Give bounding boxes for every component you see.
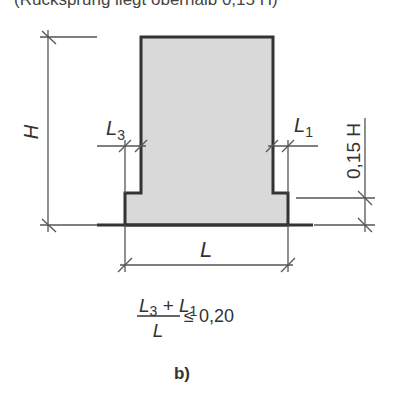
subfigure-label: b) xyxy=(174,364,190,383)
label-L3: L3 xyxy=(106,117,125,143)
svg-text:≤ 0,20: ≤ 0,20 xyxy=(184,306,234,326)
dimension-H xyxy=(40,30,97,232)
label-H: H xyxy=(20,124,42,139)
building-profile-diagram: H L3 L1 0,15 H L L3 + L1 xyxy=(0,0,394,395)
building-shape xyxy=(125,37,288,225)
label-L1: L1 xyxy=(294,114,313,140)
svg-text:L: L xyxy=(153,320,164,341)
label-015H: 0,15 H xyxy=(343,123,364,179)
label-L: L xyxy=(200,237,212,262)
ratio-formula: L3 + L1 L ≤ 0,20 xyxy=(137,295,234,341)
